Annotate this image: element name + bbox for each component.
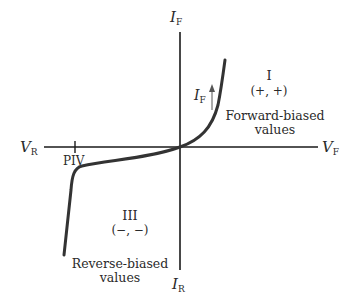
piv-label: PIV: [63, 154, 85, 168]
quadrant-3-numeral: III: [122, 208, 137, 223]
axis-label-if-top: IF: [169, 8, 182, 27]
axis-label-ir-bottom: IR: [171, 275, 185, 294]
axis-label-vr-left: VR: [20, 138, 38, 157]
quadrant-3-signs: (−, −): [111, 223, 148, 237]
quadrant-1-numeral: I: [266, 68, 271, 83]
diagram-svg: IF IR VR VF PIV IF I (+, +) Forward-bias…: [0, 0, 353, 297]
quadrant-3-desc-line1: Reverse-biased: [72, 256, 169, 271]
arrow-up-icon: [209, 84, 215, 92]
quadrant-1-desc-line1: Forward-biased: [225, 108, 324, 123]
quadrant-3-desc-line2: values: [99, 270, 140, 285]
current-arrow-label: IF: [193, 87, 206, 105]
quadrant-1-desc-line2: values: [254, 122, 295, 137]
diode-iv-diagram: IF IR VR VF PIV IF I (+, +) Forward-bias…: [0, 0, 353, 297]
quadrant-1-signs: (+, +): [250, 84, 287, 98]
axis-label-vf-right: VF: [322, 138, 339, 157]
